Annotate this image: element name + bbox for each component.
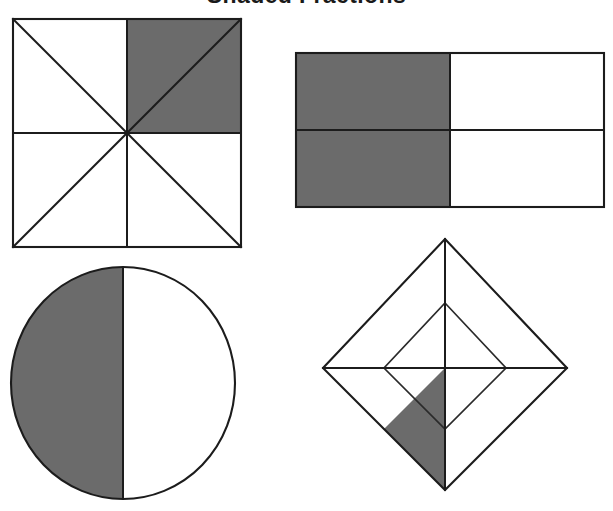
figure-square-eighths — [5, 11, 249, 255]
shaded-region — [11, 267, 123, 499]
figures-container — [0, 0, 613, 511]
shaded-region — [384, 368, 445, 490]
figure-diamond-eighths — [312, 228, 578, 504]
figure-circle-halves — [5, 259, 249, 507]
figure-rectangle-fourths — [288, 45, 612, 217]
